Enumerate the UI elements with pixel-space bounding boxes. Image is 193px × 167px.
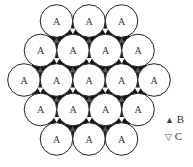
svg-text:A: A xyxy=(134,104,142,115)
svg-text:A: A xyxy=(53,134,61,145)
svg-text:A: A xyxy=(37,104,45,115)
c-site-icon: ▽ xyxy=(165,132,172,142)
legend-label-b: B xyxy=(177,113,184,125)
svg-text:A: A xyxy=(134,45,142,56)
svg-text:A: A xyxy=(85,75,93,86)
svg-text:A: A xyxy=(69,104,77,115)
svg-text:A: A xyxy=(69,45,77,56)
svg-text:A: A xyxy=(150,75,158,86)
b-site-icon: ▲ xyxy=(165,115,174,125)
svg-text:A: A xyxy=(118,134,126,145)
svg-text:A: A xyxy=(53,75,61,86)
svg-text:A: A xyxy=(102,45,110,56)
legend-label-c: C xyxy=(175,130,182,142)
svg-text:A: A xyxy=(85,16,93,27)
svg-text:A: A xyxy=(53,16,61,27)
svg-text:A: A xyxy=(118,16,126,27)
svg-text:A: A xyxy=(20,75,28,86)
legend-item-b: ▲ B xyxy=(165,113,184,125)
svg-text:A: A xyxy=(85,134,93,145)
svg-text:A: A xyxy=(37,45,45,56)
svg-text:A: A xyxy=(118,75,126,86)
svg-text:A: A xyxy=(102,104,110,115)
legend-item-c: ▽ C xyxy=(165,130,182,142)
